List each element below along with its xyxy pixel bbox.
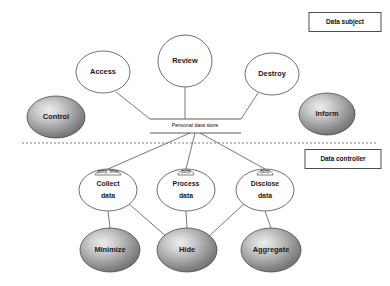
edge-destroy-store [241,93,258,119]
edge-label-process-text: purp [181,169,191,174]
diagram-canvas: Personal data store ControlAccessReviewD… [0,0,390,286]
edge-collect-hide [128,203,168,238]
privacy-patterns-diagram: Personal data store ControlAccessReviewD… [0,0,390,286]
edge-store-process [186,133,195,169]
edge-label-collect-text: purp, time [98,169,119,174]
personal-data-store-label: Personal data store [172,122,219,128]
personal-data-store: Personal data store [150,119,241,133]
edge-process-hide [186,211,187,228]
legend-data-controller: Data controller [305,150,381,169]
node-aggregate[interactable]: Aggregate [241,228,301,272]
node-label-review: Review [172,56,198,65]
node-label-process-line1: Process [173,180,200,187]
node-label-disclose-line1: Disclose [251,180,280,187]
edge-store-collect [108,133,190,169]
node-label-destroy: Destroy [258,69,286,78]
node-label-process-line2: data [179,192,193,199]
edge-label-disclose-text: purp [260,169,270,174]
node-label-control: Control [43,112,69,121]
node-label-hide: Hide [179,245,195,254]
legend-group: Data subjectData controller [305,13,381,169]
node-label-minimize: Minimize [94,245,125,254]
edge-disclose-hide [207,203,245,238]
node-label-aggregate: Aggregate [253,245,290,254]
edge-label-collect: purp, time [95,169,121,175]
node-label-collect-line1: Collect [97,180,121,187]
node-control[interactable]: Control [27,96,85,138]
node-label-collect-line2: data [101,192,115,199]
legend-data-controller-text: Data controller [320,155,366,162]
node-hide[interactable]: Hide [157,228,217,272]
node-label-access: Access [90,67,116,76]
node-destroy[interactable]: Destroy [245,53,299,95]
node-label-disclose-line2: data [258,192,272,199]
node-inform[interactable]: Inform [299,93,355,135]
legend-data-subject-text: Data subject [326,18,365,26]
node-review[interactable]: Review [158,35,212,87]
legend-data-subject: Data subject [309,13,381,32]
edge-store-disclose [200,133,265,169]
node-label-inform: Inform [316,109,339,118]
edge-collect-minimize [108,211,110,228]
edge-access-store [116,92,150,119]
node-minimize[interactable]: Minimize [80,228,140,272]
edge-disclose-aggregate [265,211,271,228]
node-access[interactable]: Access [76,51,130,93]
edge-lines-group [108,87,271,238]
